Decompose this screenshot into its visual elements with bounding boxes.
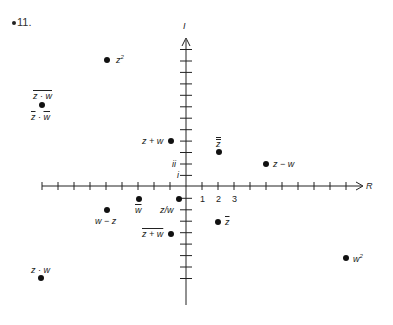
axis-ticks xyxy=(42,50,346,279)
label-w-squared: w2 xyxy=(353,253,363,264)
x-tick-label-1: 1 xyxy=(200,195,205,204)
x-tick-label-2: 2 xyxy=(216,195,221,204)
point-z-plus-w xyxy=(168,138,174,144)
complex-plane xyxy=(0,0,393,325)
label-z-squared: z2 xyxy=(116,54,124,65)
point-z-minus-w xyxy=(263,161,269,167)
imaginary-axis-label: I xyxy=(183,22,186,31)
point-z-double-bar xyxy=(216,149,222,155)
point-w-minus-z xyxy=(104,207,110,213)
label-z-times-w: z · w xyxy=(31,266,50,275)
label-conj-of-product: z · w xyxy=(33,92,52,101)
label-product-of-conjs: z · w xyxy=(31,113,50,122)
real-axis-label: R xyxy=(366,182,373,191)
point-conj-z-plus-w xyxy=(168,231,174,237)
x-tick-label-3: 3 xyxy=(232,195,237,204)
point-z2 xyxy=(104,57,110,63)
label-conj-z-plus-w: z + w xyxy=(142,230,163,239)
points xyxy=(38,57,349,281)
label-z-plus-w: z + w xyxy=(142,137,163,146)
point-z-bar xyxy=(215,219,221,225)
label-w-minus-z: w − z xyxy=(95,217,116,226)
label-z-bar: z xyxy=(225,218,230,227)
label-z-double-bar: z xyxy=(216,140,221,149)
point-conj-zw xyxy=(39,102,45,108)
bullet-icon xyxy=(12,21,16,25)
point-w2 xyxy=(343,255,349,261)
problem-number: 11. xyxy=(12,16,31,28)
y-tick-label-i: i xyxy=(177,171,179,180)
point-z-over-w xyxy=(176,196,182,202)
label-z-over-w: z/w xyxy=(160,206,174,215)
point-w-bar xyxy=(136,196,142,202)
y-tick-label-ii: ii xyxy=(172,160,176,169)
label-w-bar: w xyxy=(135,206,142,215)
label-z-minus-w: z − w xyxy=(273,160,294,169)
point-z-times-w xyxy=(38,275,44,281)
